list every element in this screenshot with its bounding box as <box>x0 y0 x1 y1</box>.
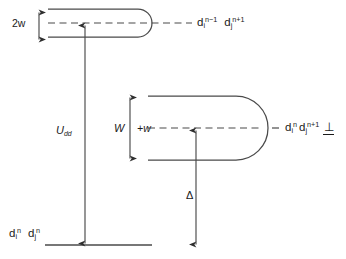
state-label-upper: din−1djn+1 <box>197 17 245 29</box>
transition-energy-label: Udd <box>56 125 72 136</box>
band-width-upper-text: 2w <box>12 17 25 29</box>
state-upper-first-sup: n−1 <box>205 15 217 24</box>
state-middle-second: djn+1 <box>299 121 319 133</box>
band-width-lower-text: W <box>114 122 124 134</box>
band-width-lower-label: W <box>114 123 124 134</box>
state-ground-first: din <box>9 227 21 239</box>
energy-level-diagram: 2w Udd W +w Δ din−1djn+1 dindjn+1⊥ dindj… <box>0 0 346 259</box>
state-middle-first: din <box>285 121 297 133</box>
state-label-ground: dindjn <box>9 228 40 240</box>
transition-energy-sub: dd <box>64 130 72 137</box>
state-ground-second: djn <box>28 227 40 239</box>
state-label-middle: dindjn+1⊥ <box>285 122 334 135</box>
band-width-upper-label: 2w <box>12 18 25 29</box>
band-shift-lower-label: +w <box>137 123 151 134</box>
gap-text: Δ <box>186 189 193 201</box>
band-shift-lower-text: +w <box>137 122 151 134</box>
state-middle-first-sup: n <box>293 120 297 129</box>
state-upper-second-sup: n+1 <box>232 15 244 24</box>
state-upper-second: djn+1 <box>224 16 244 28</box>
state-middle-second-sup: n+1 <box>307 120 319 129</box>
state-ground-first-sup: n <box>17 226 21 235</box>
perpendicular-icon: ⊥ <box>323 122 334 135</box>
gap-label: Δ <box>186 190 193 201</box>
state-upper-first: din−1 <box>197 16 217 28</box>
transition-energy-base: U <box>56 124 64 136</box>
state-ground-second-sup: n <box>36 226 40 235</box>
